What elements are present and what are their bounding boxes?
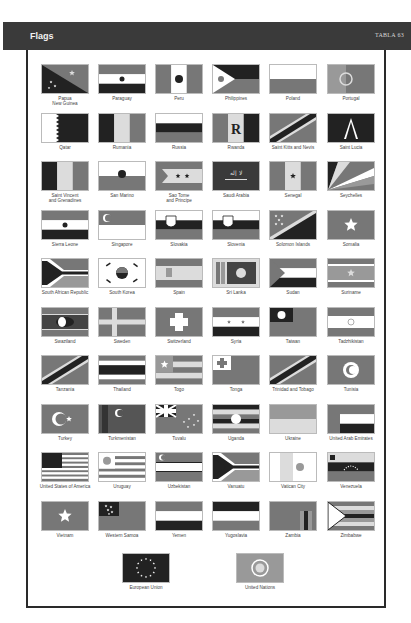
flag-caption: Tonga xyxy=(207,387,265,392)
flag-caption: Rumania xyxy=(93,145,151,150)
flag-image-switzerland xyxy=(155,307,203,337)
flag-tile-saudi-arabia: لا إلهSaudi Arabia xyxy=(207,161,265,198)
flag-tile-slovakia: Slovakia xyxy=(150,210,208,247)
flag-tile-tonga: Tonga xyxy=(207,355,265,392)
flag-image-somalia xyxy=(327,210,375,240)
flag-caption: Singapore xyxy=(93,242,151,247)
flag-tile-tanzania: Tanzania xyxy=(36,355,94,392)
flag-tile-qatar: Qatar xyxy=(36,113,94,150)
flag-image-sri-lanka xyxy=(212,258,260,288)
flag-image-sao-tome-and-principe xyxy=(155,161,203,191)
flag-image-taiwan xyxy=(269,307,317,337)
flag-caption: Russia xyxy=(150,145,208,150)
flag-image-trinidad-and-tobago xyxy=(269,355,317,385)
flag-image-ukraine xyxy=(269,404,317,434)
flag-image-sweden xyxy=(98,307,146,337)
flag-image-turkmenistan xyxy=(98,404,146,434)
flag-row: Saint Vincent and GrenadinesSan MarinoSa… xyxy=(36,161,381,210)
flag-image-vietnam xyxy=(41,501,89,531)
flag-caption: Turkey xyxy=(36,436,94,441)
flag-image-syria xyxy=(212,307,260,337)
flag-caption: Zambia xyxy=(264,533,322,538)
flag-tile-sweden: Sweden xyxy=(93,307,151,344)
page-title: Flags xyxy=(30,31,54,41)
flag-tile-turkmenistan: Turkmenistan xyxy=(93,404,151,441)
flag-tile-thailand: Thailand xyxy=(93,355,151,392)
flag-caption: United Nations xyxy=(232,585,288,590)
flag-caption: United States of America xyxy=(36,484,94,489)
flag-image-portugal xyxy=(327,64,375,94)
flag-tile-european-union: European Union xyxy=(118,553,174,590)
flag-tile-vietnam: Vietnam xyxy=(36,501,94,538)
flag-image-european-union xyxy=(122,553,170,583)
flag-tile-yugoslavia: Yugoslavia xyxy=(207,501,265,538)
flag-caption: Somalia xyxy=(322,242,380,247)
flag-tile-portugal: Portugal xyxy=(322,64,380,101)
flag-tile-sri-lanka: Sri Lanka xyxy=(207,258,265,295)
page-number-label: TABLA 63 xyxy=(375,32,404,38)
flag-image-rwanda: R xyxy=(212,113,260,143)
flag-tile-syria: Syria xyxy=(207,307,265,344)
flag-caption: Tadzhikistan xyxy=(322,339,380,344)
flag-caption: Uzbekistan xyxy=(150,484,208,489)
flag-image-qatar xyxy=(41,113,89,143)
flag-caption: Seychelles xyxy=(322,193,380,198)
flag-tile-south-korea: South Korea xyxy=(93,258,151,295)
flag-caption: Paraguay xyxy=(93,96,151,101)
flag-grid: Papua New GuineaParaguayPeruPhilippinesP… xyxy=(36,64,381,549)
flag-image-united-states-of-america xyxy=(41,452,89,482)
flag-caption: Turkmenistan xyxy=(93,436,151,441)
flag-tile-tunisia: Tunisia xyxy=(322,355,380,392)
flag-tile-swaziland: Swaziland xyxy=(36,307,94,344)
flag-image-turkey xyxy=(41,404,89,434)
flag-image-yugoslavia xyxy=(212,501,260,531)
flag-tile-uruguay: Uruguay xyxy=(93,452,151,489)
flag-caption: Uganda xyxy=(207,436,265,441)
flag-image-uruguay xyxy=(98,452,146,482)
flag-tile-united-nations: United Nations xyxy=(232,553,288,590)
flag-caption: Vatican City xyxy=(264,484,322,489)
flag-tile-rwanda: RRwanda xyxy=(207,113,265,150)
flag-caption: Ukraine xyxy=(264,436,322,441)
flag-row: United States of AmericaUruguayUzbekista… xyxy=(36,452,381,501)
flag-caption: Switzerland xyxy=(150,339,208,344)
svg-text:R: R xyxy=(231,122,242,137)
flag-tile-vanuatu: Vanuatu xyxy=(207,452,265,489)
flag-tile-rumania: Rumania xyxy=(93,113,151,150)
flag-image-spain xyxy=(155,258,203,288)
flag-caption: Suriname xyxy=(322,290,380,295)
flag-tile-san-marino: San Marino xyxy=(93,161,151,198)
flag-tile-sao-tome-and-principe: Sao Tome and Principe xyxy=(150,161,208,203)
flag-tile-somalia: Somalia xyxy=(322,210,380,247)
flag-caption: Sierra Leone xyxy=(36,242,94,247)
flag-tile-solomon-islands: Solomon Islands xyxy=(264,210,322,247)
flag-caption: Saint Lucia xyxy=(322,145,380,150)
flag-caption: Vietnam xyxy=(36,533,94,538)
flag-tile-senegal: Senegal xyxy=(264,161,322,198)
flag-tile-yemen: Yemen xyxy=(150,501,208,538)
flag-tile-turkey: Turkey xyxy=(36,404,94,441)
flag-caption: Western Samoa xyxy=(93,533,151,538)
flag-caption: Togo xyxy=(150,387,208,392)
flag-caption: Saudi Arabia xyxy=(207,193,265,198)
flag-caption: Swaziland xyxy=(36,339,94,344)
flag-image-suriname xyxy=(327,258,375,288)
flag-tile-russia: Russia xyxy=(150,113,208,150)
flag-image-singapore xyxy=(98,210,146,240)
flag-caption: United Arab Emirates xyxy=(322,436,380,441)
flag-tile-zambia: Zambia xyxy=(264,501,322,538)
flag-tile-sudan: Sudan xyxy=(264,258,322,295)
flag-image-slovakia xyxy=(155,210,203,240)
flag-image-uzbekistan xyxy=(155,452,203,482)
flag-tile-tuvalu: Tuvalu xyxy=(150,404,208,441)
flag-caption: Sri Lanka xyxy=(207,290,265,295)
page-header-bar: Flags TABLA 63 xyxy=(3,22,411,50)
flag-tile-uzbekistan: Uzbekistan xyxy=(150,452,208,489)
flag-caption: Vanuatu xyxy=(207,484,265,489)
flag-row: South African RepublicSouth KoreaSpainSr… xyxy=(36,258,381,307)
flag-image-russia xyxy=(155,113,203,143)
flag-tile-uganda: Uganda xyxy=(207,404,265,441)
flag-image-vatican-city xyxy=(269,452,317,482)
flag-image-zimbabwe xyxy=(327,501,375,531)
flag-image-venezuela xyxy=(327,452,375,482)
